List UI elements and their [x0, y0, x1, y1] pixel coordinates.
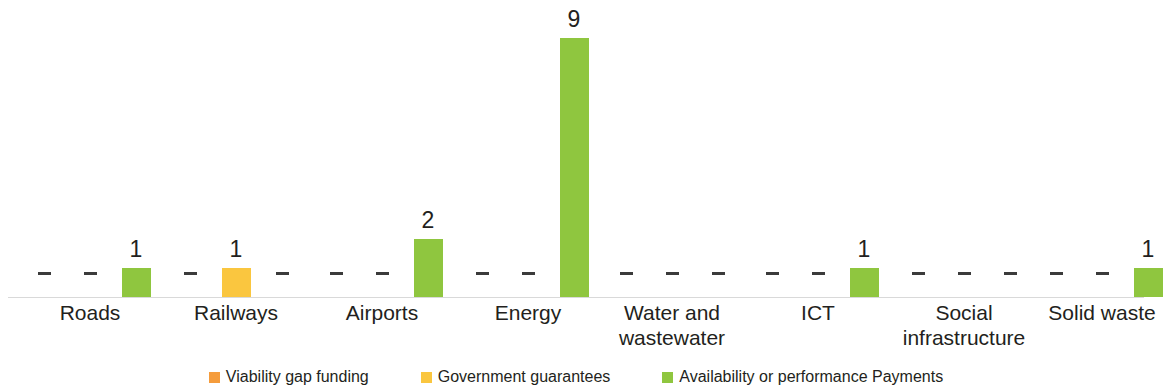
bar-slot — [1033, 0, 1079, 297]
legend-label: Viability gap funding — [226, 368, 369, 386]
category-axis-labels: RoadsRailwaysAirportsEnergyWater andwast… — [0, 300, 1152, 360]
bar-value-label: 2 — [422, 209, 435, 232]
bar-group: 1 — [1027, 0, 1167, 297]
bar-slot — [167, 0, 213, 297]
category-label-line: Social — [889, 300, 1039, 325]
bar-slot: 2 — [405, 0, 451, 297]
bar[interactable] — [560, 38, 589, 297]
bar-slot: 1 — [213, 0, 259, 297]
bar-slot — [749, 0, 795, 297]
bar-slot — [895, 0, 941, 297]
legend-swatch-icon — [209, 372, 220, 383]
category-label-line: infrastructure — [889, 325, 1039, 350]
category-label: Railways — [161, 300, 311, 325]
category-label-line: Roads — [15, 300, 165, 325]
bar-slot — [313, 0, 359, 297]
category-label-line: Airports — [307, 300, 457, 325]
x-axis-baseline — [8, 297, 1144, 298]
zero-value-dash — [476, 272, 489, 275]
category-label: Water andwastewater — [597, 300, 747, 350]
plot-area: 112911 — [0, 0, 1152, 298]
zero-value-dash — [376, 272, 389, 275]
bar-slot: 1 — [1125, 0, 1167, 297]
bar-group: 9 — [453, 0, 603, 297]
zero-value-dash — [276, 272, 289, 275]
category-label: Solid waste — [1027, 300, 1167, 325]
bar-slot — [259, 0, 305, 297]
bar-slot: 1 — [113, 0, 159, 297]
bar-slot: 9 — [551, 0, 597, 297]
zero-value-dash — [766, 272, 779, 275]
bar-value-label: 1 — [858, 238, 871, 261]
bar-slot — [603, 0, 649, 297]
bar-value-label: 9 — [568, 8, 581, 31]
zero-value-dash — [330, 272, 343, 275]
bar-group — [889, 0, 1039, 297]
bar[interactable] — [1134, 268, 1163, 297]
zero-value-dash — [620, 272, 633, 275]
bar-slot: 1 — [841, 0, 887, 297]
bar-group: 2 — [307, 0, 457, 297]
legend-label: Availability or performance Payments — [679, 368, 943, 386]
bar-slot — [359, 0, 405, 297]
zero-value-dash — [958, 272, 971, 275]
bar[interactable] — [122, 268, 151, 297]
bar-slot — [505, 0, 551, 297]
bar-group: 1 — [15, 0, 165, 297]
zero-value-dash — [812, 272, 825, 275]
bar-group: 1 — [161, 0, 311, 297]
legend-item[interactable]: Availability or performance Payments — [662, 368, 943, 386]
zero-value-dash — [84, 272, 97, 275]
category-label: Socialinfrastructure — [889, 300, 1039, 350]
chart-legend: Viability gap fundingGovernment guarante… — [0, 364, 1152, 390]
bar-slot — [21, 0, 67, 297]
category-label-line: Water and — [597, 300, 747, 325]
category-label-line: wastewater — [597, 325, 747, 350]
bar-slot — [695, 0, 741, 297]
category-label-line: Railways — [161, 300, 311, 325]
category-label-line: Energy — [453, 300, 603, 325]
category-label: Energy — [453, 300, 603, 325]
zero-value-dash — [522, 272, 535, 275]
category-label-line: Solid waste — [1027, 300, 1167, 325]
category-label-line: ICT — [743, 300, 893, 325]
bar-slot — [67, 0, 113, 297]
bar[interactable] — [414, 239, 443, 297]
bar-slot — [459, 0, 505, 297]
bar[interactable] — [850, 268, 879, 297]
bar-slot — [649, 0, 695, 297]
bar-slot — [941, 0, 987, 297]
bar-value-label: 1 — [230, 238, 243, 261]
legend-item[interactable]: Government guarantees — [421, 368, 611, 386]
zero-value-dash — [712, 272, 725, 275]
legend-item[interactable]: Viability gap funding — [209, 368, 369, 386]
zero-value-dash — [912, 272, 925, 275]
zero-value-dash — [38, 272, 51, 275]
bar-value-label: 1 — [1142, 238, 1155, 261]
bar-group — [597, 0, 747, 297]
legend-label: Government guarantees — [438, 368, 611, 386]
bar[interactable] — [222, 268, 251, 297]
bar-group: 1 — [743, 0, 893, 297]
bar-slot — [795, 0, 841, 297]
legend-swatch-icon — [421, 372, 432, 383]
zero-value-dash — [1004, 272, 1017, 275]
zero-value-dash — [184, 272, 197, 275]
bar-slot — [1079, 0, 1125, 297]
zero-value-dash — [1096, 272, 1109, 275]
bar-value-label: 1 — [130, 238, 143, 261]
category-label: Airports — [307, 300, 457, 325]
zero-value-dash — [1050, 272, 1063, 275]
legend-swatch-icon — [662, 372, 673, 383]
category-label: ICT — [743, 300, 893, 325]
zero-value-dash — [666, 272, 679, 275]
category-label: Roads — [15, 300, 165, 325]
